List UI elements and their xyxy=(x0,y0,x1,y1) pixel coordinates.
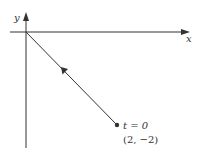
y-axis-arrow-icon xyxy=(23,12,29,21)
x-axis-label: x xyxy=(186,33,192,44)
trajectory-line xyxy=(26,32,117,125)
y-axis-label: y xyxy=(13,12,20,23)
time-label: t = 0 xyxy=(123,120,149,131)
point-label: (2, −2) xyxy=(123,134,158,145)
diagram: x y t = 0 (2, −2) xyxy=(0,0,201,153)
start-point-dot xyxy=(115,123,119,127)
x-axis xyxy=(10,29,190,35)
